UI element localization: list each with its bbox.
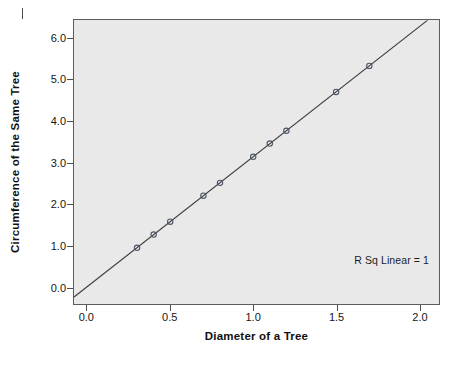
- y-tick-label: 6.0: [20, 32, 66, 44]
- x-tick-mark: [86, 305, 87, 311]
- x-tick-label: 1.5: [307, 311, 367, 323]
- x-axis-title: Diameter of a Tree: [73, 330, 440, 342]
- plot-area: R Sq Linear = 1: [73, 19, 440, 305]
- scatter-plot-figure: 0.01.02.03.04.05.06.0 R Sq Linear = 1 0.…: [0, 0, 464, 366]
- x-tick-mark: [420, 305, 421, 311]
- x-tick-label: 2.0: [390, 311, 450, 323]
- y-tick-label: 4.0: [20, 115, 66, 127]
- y-tick-label: 5.0: [20, 73, 66, 85]
- x-tick-mark: [170, 305, 171, 311]
- y-tick-label: 2.0: [20, 198, 66, 210]
- y-tick-label: 3.0: [20, 157, 66, 169]
- y-tick-label: 1.0: [20, 240, 66, 252]
- x-tick-label: 0.5: [140, 311, 200, 323]
- y-axis-title: Circumference of the Same Tree: [8, 19, 22, 305]
- y-tick-label: 0.0: [20, 282, 66, 294]
- x-tick-mark: [253, 305, 254, 311]
- x-tick-mark: [337, 305, 338, 311]
- x-tick-label: 0.0: [56, 311, 116, 323]
- x-tick-label: 1.0: [223, 311, 283, 323]
- r-squared-annotation: R Sq Linear = 1: [354, 254, 429, 266]
